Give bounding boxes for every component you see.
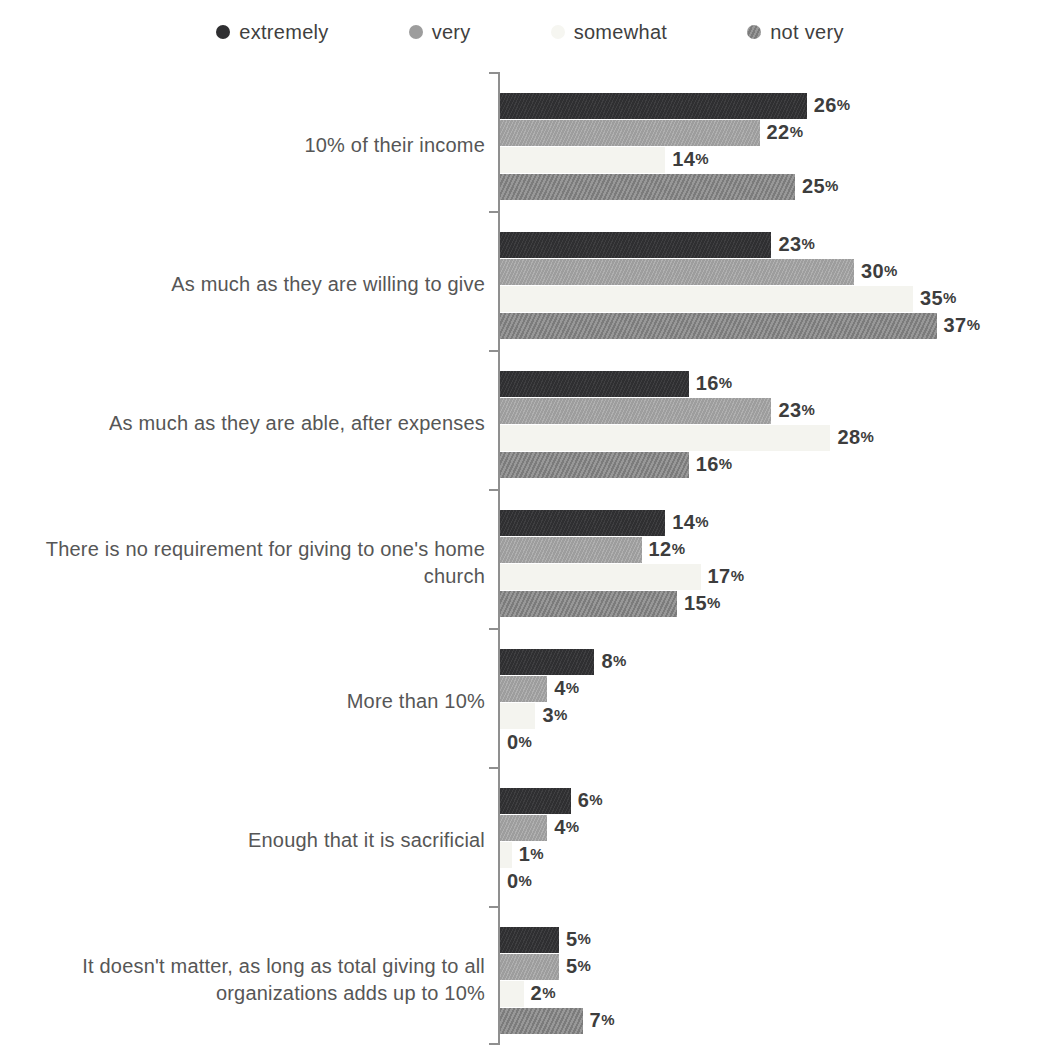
percent-sign: % xyxy=(613,652,627,669)
value-label: 23% xyxy=(778,233,815,256)
legend-label: not very xyxy=(770,21,844,44)
value-number: 0 xyxy=(507,870,519,892)
legend: extremelyverysomewhatnot very xyxy=(0,0,1060,48)
category-label: As much as they are willing to give xyxy=(0,211,498,350)
bar-line: 2% xyxy=(500,980,1060,1007)
category-bars-group: 16%23%28%16% xyxy=(498,350,1060,489)
value-number: 26 xyxy=(814,94,837,116)
chart-row: Enough that it is sacrificial6%4%1%0% xyxy=(0,767,1060,906)
bar-line: 28% xyxy=(500,424,1060,451)
percent-sign: % xyxy=(672,540,686,557)
category-bars-group: 6%4%1%0% xyxy=(498,767,1060,906)
category-label: More than 10% xyxy=(0,628,498,767)
category-bars-group: 26%22%14%25% xyxy=(498,72,1060,211)
value-label: 14% xyxy=(672,148,709,171)
bar-not-very xyxy=(500,313,937,339)
chart-row: It doesn't matter, as long as total givi… xyxy=(0,906,1060,1045)
category-bars-group: 5%5%2%7% xyxy=(498,906,1060,1045)
percent-sign: % xyxy=(731,567,745,584)
percent-sign: % xyxy=(530,845,544,862)
bar-line: 7% xyxy=(500,1007,1060,1034)
bar-line: 25% xyxy=(500,173,1060,200)
bar-extremely xyxy=(500,927,559,953)
legend-item-not-very: not very xyxy=(747,21,844,44)
bar-line: 37% xyxy=(500,312,1060,339)
value-number: 14 xyxy=(672,148,695,170)
percent-sign: % xyxy=(695,150,709,167)
value-number: 37 xyxy=(944,314,967,336)
chart-row: As much as they are willing to give23%30… xyxy=(0,211,1060,350)
percent-sign: % xyxy=(519,872,533,889)
value-label: 22% xyxy=(767,121,804,144)
value-number: 0 xyxy=(507,731,519,753)
value-label: 5% xyxy=(566,928,591,951)
value-number: 5 xyxy=(566,928,578,950)
percent-sign: % xyxy=(554,706,568,723)
value-label: 16% xyxy=(696,453,733,476)
value-number: 17 xyxy=(708,565,731,587)
value-label: 0% xyxy=(507,731,532,754)
value-label: 15% xyxy=(684,592,721,615)
bar-very xyxy=(500,676,547,702)
value-number: 14 xyxy=(672,511,695,533)
value-label: 3% xyxy=(542,704,567,727)
bar-line: 14% xyxy=(500,509,1060,536)
value-label: 17% xyxy=(708,565,745,588)
value-label: 12% xyxy=(649,538,686,561)
percent-sign: % xyxy=(837,96,851,113)
value-number: 4 xyxy=(554,816,566,838)
value-label: 6% xyxy=(578,789,603,812)
bar-line: 35% xyxy=(500,285,1060,312)
value-number: 2 xyxy=(531,982,543,1004)
bar-line: 0% xyxy=(500,868,1060,895)
percent-sign: % xyxy=(860,428,874,445)
percent-sign: % xyxy=(801,401,815,418)
bar-extremely xyxy=(500,232,771,258)
percent-sign: % xyxy=(578,930,592,947)
bar-extremely xyxy=(500,371,689,397)
value-number: 28 xyxy=(837,426,860,448)
bar-line: 4% xyxy=(500,814,1060,841)
bar-very xyxy=(500,259,854,285)
chart-row: 10% of their income26%22%14%25% xyxy=(0,72,1060,211)
value-label: 30% xyxy=(861,260,898,283)
legend-swatch-somewhat xyxy=(551,25,565,39)
legend-label: very xyxy=(432,21,471,44)
percent-sign: % xyxy=(519,733,533,750)
value-label: 0% xyxy=(507,870,532,893)
bar-line: 14% xyxy=(500,146,1060,173)
chart-row: More than 10%8%4%3%0% xyxy=(0,628,1060,767)
percent-sign: % xyxy=(695,513,709,530)
value-number: 12 xyxy=(649,538,672,560)
bar-line: 8% xyxy=(500,648,1060,675)
percent-sign: % xyxy=(589,791,603,808)
value-number: 35 xyxy=(920,287,943,309)
percent-sign: % xyxy=(884,262,898,279)
value-number: 6 xyxy=(578,789,590,811)
value-label: 14% xyxy=(672,511,709,534)
percent-sign: % xyxy=(542,984,556,1001)
category-bars-group: 8%4%3%0% xyxy=(498,628,1060,767)
value-label: 16% xyxy=(696,372,733,395)
bar-line: 30% xyxy=(500,258,1060,285)
category-bars-group: 23%30%35%37% xyxy=(498,211,1060,350)
percent-sign: % xyxy=(719,455,733,472)
bar-line: 6% xyxy=(500,787,1060,814)
percent-sign: % xyxy=(719,374,733,391)
bar-very xyxy=(500,954,559,980)
percent-sign: % xyxy=(943,289,957,306)
bar-line: 16% xyxy=(500,451,1060,478)
bar-somewhat xyxy=(500,703,535,729)
value-label: 2% xyxy=(531,982,556,1005)
bar-very xyxy=(500,120,760,146)
value-label: 7% xyxy=(590,1009,615,1032)
percent-sign: % xyxy=(825,177,839,194)
bar-very xyxy=(500,398,771,424)
bar-not-very xyxy=(500,591,677,617)
legend-swatch-very xyxy=(409,25,423,39)
value-label: 4% xyxy=(554,816,579,839)
bar-line: 0% xyxy=(500,729,1060,756)
legend-label: extremely xyxy=(239,21,328,44)
bar-line: 15% xyxy=(500,590,1060,617)
value-label: 37% xyxy=(944,314,981,337)
